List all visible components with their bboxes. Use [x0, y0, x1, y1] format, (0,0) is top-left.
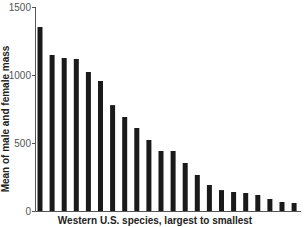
- bar: [171, 151, 176, 211]
- bar: [255, 195, 260, 211]
- bar: [98, 81, 103, 211]
- y-axis-label: Mean of male and female mass: [0, 45, 11, 192]
- bars-group: [38, 27, 297, 211]
- bar: [74, 59, 79, 211]
- bar: [183, 163, 188, 211]
- bar: [292, 203, 297, 211]
- bar: [267, 199, 272, 211]
- bar: [243, 193, 248, 211]
- bar: [219, 190, 224, 211]
- bar: [159, 151, 164, 211]
- bar: [146, 140, 151, 211]
- y-axis-ticks: 050010001500: [9, 2, 36, 217]
- y-tick-label: 1500: [9, 2, 32, 13]
- bar: [231, 192, 236, 211]
- bar: [207, 185, 212, 211]
- x-axis-label: Western U.S. species, largest to smalles…: [58, 215, 253, 226]
- y-tick-label: 1000: [9, 70, 32, 81]
- bar: [86, 72, 91, 211]
- y-tick-label: 0: [25, 206, 31, 217]
- bar-chart: 050010001500 Western U.S. species, large…: [0, 0, 304, 227]
- bar: [280, 202, 285, 211]
- y-tick-label: 500: [14, 138, 31, 149]
- bar: [62, 58, 67, 211]
- bar: [38, 27, 43, 211]
- bar: [134, 128, 139, 211]
- bar: [50, 55, 55, 211]
- bar: [110, 105, 115, 211]
- bar: [122, 117, 127, 211]
- bar: [195, 175, 200, 211]
